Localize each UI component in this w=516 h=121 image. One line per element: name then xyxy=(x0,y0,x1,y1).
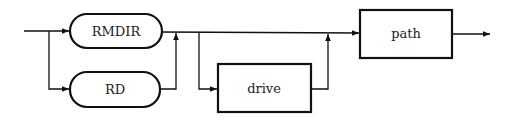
drive-label: drive xyxy=(247,81,281,96)
rd-node: RD xyxy=(70,72,160,107)
rd-branch-line xyxy=(49,31,69,89)
main-line xyxy=(162,32,359,33)
drive-branch-line xyxy=(199,32,217,89)
syntax-diagram: RMDIR RD drive path xyxy=(0,0,516,121)
drive-node: drive xyxy=(218,64,311,112)
rd-label: RD xyxy=(105,82,125,97)
rmdir-label: RMDIR xyxy=(92,24,142,39)
rmdir-node: RMDIR xyxy=(70,14,162,48)
path-label: path xyxy=(391,26,421,41)
rd-return-line xyxy=(160,33,176,89)
path-node: path xyxy=(360,10,452,58)
drive-return-line xyxy=(311,34,328,89)
